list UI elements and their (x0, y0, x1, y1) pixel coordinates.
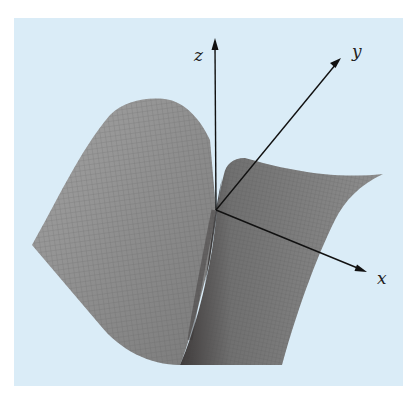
surface-plot: z y x (0, 0, 418, 404)
z-axis-arrowhead-icon (212, 38, 219, 50)
y-axis-arrowhead-icon (330, 58, 341, 68)
z-axis (215, 46, 216, 210)
y-axis-label: y (351, 41, 362, 61)
surface-left-lobe (32, 99, 216, 365)
x-axis-label: x (377, 268, 387, 288)
z-axis-label: z (193, 45, 204, 65)
x-axis-arrowhead-icon (355, 265, 368, 273)
